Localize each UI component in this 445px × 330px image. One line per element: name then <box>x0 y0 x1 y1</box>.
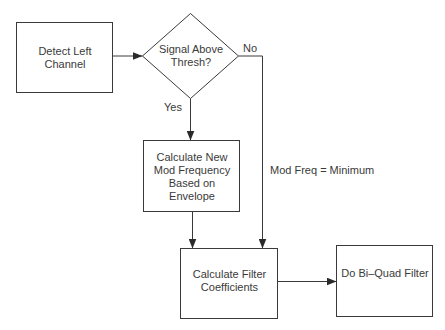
biquad-node-label: Do Bi–Quad Filter <box>337 246 433 300</box>
detect-node-label: Detect Left Channel <box>17 23 113 93</box>
decision-node-label: Signal Above Thresh? <box>143 14 239 98</box>
calc-coef-node-label: Calculate Filter Coefficients <box>181 249 278 313</box>
edge-label-no: No <box>243 42 257 54</box>
edge-label-yes: Yes <box>164 101 182 113</box>
edge-label-mod-min: Mod Freq = Minimum <box>270 164 374 176</box>
calc-mod-node-label: Calculate New Mod Frequency Based on Env… <box>144 141 240 212</box>
edge-no <box>239 56 263 249</box>
